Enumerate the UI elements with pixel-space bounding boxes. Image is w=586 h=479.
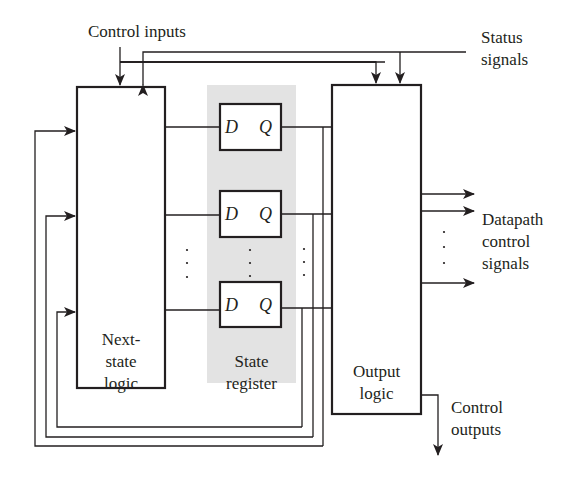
control-inputs-label: Control inputs xyxy=(88,22,186,42)
status-signals-label-2: signals xyxy=(481,50,528,70)
ff1-q-label: Q xyxy=(259,117,272,137)
datapath-label-3: signals xyxy=(482,254,529,274)
ff1-d-label: D xyxy=(225,117,238,137)
ffn-d-label: D xyxy=(225,295,238,315)
control-outputs-label-2: outputs xyxy=(451,420,501,440)
ffn-q-label: Q xyxy=(259,295,272,315)
state-register-label-1: State xyxy=(207,352,296,372)
output-logic-label-2: logic xyxy=(332,384,421,404)
next-state-label-3: logic xyxy=(77,374,165,394)
next-state-label-1: Next- xyxy=(77,330,165,350)
control-outputs-label-1: Control xyxy=(451,398,503,418)
status-signals-label-1: Status xyxy=(481,28,523,48)
datapath-label-2: control xyxy=(482,232,530,252)
ff2-q-label: Q xyxy=(259,204,272,224)
output-logic-label-1: Output xyxy=(332,362,421,382)
next-state-label-2: state xyxy=(77,352,165,372)
ff2-d-label: D xyxy=(225,204,238,224)
fsm-control-unit-diagram: Control inputs Status signals Datapath c… xyxy=(0,0,586,479)
state-register-label-2: register xyxy=(207,374,296,394)
datapath-label-1: Datapath xyxy=(482,210,543,230)
